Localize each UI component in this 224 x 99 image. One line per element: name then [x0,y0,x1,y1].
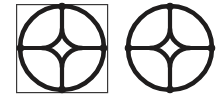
figure-canvas [0,0,224,99]
node-south-left [58,86,66,94]
diagram-svg [0,0,224,99]
node-north-left [58,3,66,11]
astroid-star-right [150,29,190,67]
node-north-right [166,3,174,11]
node-east-right [208,44,216,52]
astroid-star-left [42,29,82,67]
node-west-left [17,44,25,52]
node-east-left [100,44,108,52]
figure-right [125,3,216,94]
figure-left [17,3,108,94]
node-west-right [125,44,133,52]
node-south-right [166,86,174,94]
